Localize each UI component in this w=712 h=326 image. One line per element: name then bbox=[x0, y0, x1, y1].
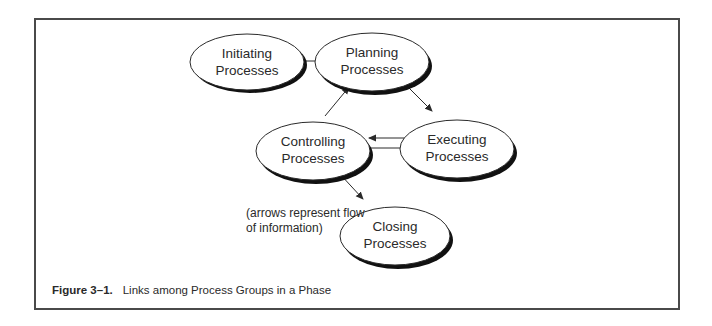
arrows-legend-note: (arrows represent flowof information) bbox=[246, 206, 365, 236]
process-groups-diagram: Initiating Processes Planning Processes … bbox=[0, 0, 712, 326]
node-closing-line2: Processes bbox=[363, 236, 426, 251]
node-planning: Planning Processes bbox=[315, 33, 432, 95]
note-line1: (arrows represent flow bbox=[246, 206, 365, 221]
figure-caption-label: Figure 3–1. bbox=[52, 284, 113, 296]
node-initiating-line2: Processes bbox=[215, 63, 278, 78]
node-executing-line1: Executing bbox=[427, 132, 486, 147]
figure-caption: Figure 3–1.Links among Process Groups in… bbox=[52, 284, 331, 296]
node-planning-line1: Planning bbox=[346, 45, 399, 60]
node-initiating-line1: Initiating bbox=[222, 46, 272, 61]
node-initiating: Initiating Processes bbox=[190, 34, 307, 93]
arrow-controlling-to-planning bbox=[325, 87, 349, 116]
node-controlling-line1: Controlling bbox=[281, 134, 346, 149]
node-executing-line2: Processes bbox=[425, 149, 488, 164]
node-controlling: Controlling Processes bbox=[256, 122, 373, 184]
node-controlling-line2: Processes bbox=[281, 151, 344, 166]
node-planning-line2: Processes bbox=[340, 62, 403, 77]
figure-caption-text: Links among Process Groups in a Phase bbox=[123, 284, 331, 296]
arrow-planning-to-executing bbox=[408, 87, 432, 111]
node-executing: Executing Processes bbox=[400, 120, 517, 182]
note-line2: of information) bbox=[246, 221, 365, 236]
node-closing-line1: Closing bbox=[372, 219, 417, 234]
